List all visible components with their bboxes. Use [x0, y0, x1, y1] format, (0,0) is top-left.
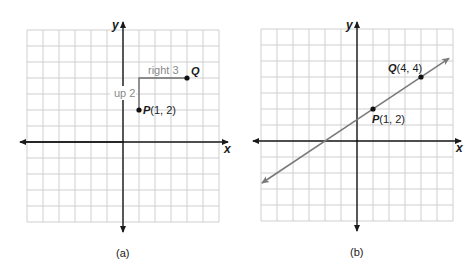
x-axis-label-a: x: [223, 142, 232, 156]
y-axis-label-b: y: [345, 18, 354, 32]
figure: y x up 2 right 3 P(1, 2) Q (a): [0, 0, 474, 272]
point-p-b: [370, 106, 375, 111]
panel-b: y x P(1, 2) Q(4, 4) (b): [253, 18, 464, 258]
line-pq-lower: [262, 120, 357, 183]
point-q-b-label: Q(4, 4): [388, 62, 422, 74]
right-annotation: right 3: [148, 64, 179, 76]
point-q-b: [418, 74, 423, 79]
point-p-a: [136, 107, 141, 112]
point-q-a-label: Q: [191, 65, 200, 77]
point-p-a-label: P(1, 2): [143, 104, 176, 116]
point-p-b-label: P(1, 2): [372, 113, 405, 125]
y-axis-label-a: y: [111, 18, 120, 32]
up-annotation: up 2: [114, 87, 135, 99]
caption-a: (a): [116, 247, 129, 259]
panel-a: y x up 2 right 3 P(1, 2) Q (a): [20, 18, 232, 259]
x-axis-label-b: x: [455, 141, 464, 155]
point-q-a: [184, 75, 189, 80]
caption-b: (b): [350, 246, 363, 258]
